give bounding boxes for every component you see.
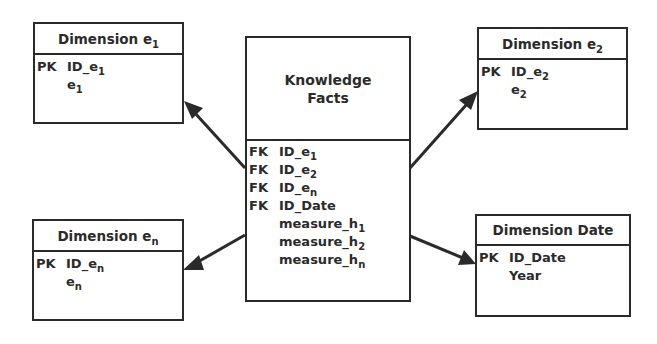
field-row: PK ID_Date — [479, 249, 629, 267]
knowledge-facts-title-line2: Facts — [307, 89, 349, 107]
primary-key-label: PK — [479, 249, 509, 267]
dimension-en-title: Dimension en — [57, 228, 158, 244]
field-row: Year — [479, 267, 629, 285]
primary-key-label: PK — [37, 58, 67, 76]
field-name: ID_e1 — [279, 143, 317, 161]
knowledge-facts-fields: FK ID_e1 FK ID_e2 FK ID_en FK ID_Date me… — [247, 141, 409, 269]
dimension-e1-fields: PK ID_e1 e1 — [35, 55, 182, 94]
field-row: FK ID_Date — [249, 197, 409, 215]
dimension-date-table: Dimension Date PK ID_Date Year — [475, 214, 631, 317]
field-row: FK ID_e1 — [249, 143, 409, 161]
field-row: PK ID_e1 — [37, 58, 182, 76]
measure-name: measure_h1 — [279, 215, 365, 233]
dimension-date-title: Dimension Date — [493, 222, 614, 238]
field-row: en — [36, 273, 182, 291]
knowledge-facts-header: Knowledge Facts — [247, 38, 409, 141]
foreign-key-label: FK — [249, 179, 279, 197]
field-name: ID_e2 — [511, 63, 549, 81]
foreign-key-label: FK — [249, 197, 279, 215]
dimension-en-fields: PK ID_en en — [34, 252, 182, 291]
dimension-e2-table: Dimension e2 PK ID_e2 e2 — [477, 27, 628, 130]
field-name: ID_Date — [509, 249, 566, 267]
arrow-to-dimension-date — [410, 236, 476, 265]
field-row: measure_h2 — [249, 233, 409, 251]
dimension-e2-header: Dimension e2 — [479, 29, 626, 60]
dimension-date-fields: PK ID_Date Year — [477, 246, 629, 285]
dimension-e1-title: Dimension e1 — [58, 31, 159, 47]
dimension-en-table: Dimension en PK ID_en en — [32, 219, 184, 321]
field-row: e2 — [481, 81, 626, 99]
knowledge-facts-title-line1: Knowledge — [284, 71, 371, 89]
field-name: ID_e2 — [279, 161, 317, 179]
field-row: PK ID_e2 — [481, 63, 626, 81]
field-name: ID_en — [66, 255, 104, 273]
field-row: FK ID_en — [249, 179, 409, 197]
field-name: ID_en — [279, 179, 317, 197]
primary-key-label: PK — [36, 255, 66, 273]
field-row: FK ID_e2 — [249, 161, 409, 179]
dimension-e2-title: Dimension e2 — [502, 36, 603, 52]
foreign-key-label: FK — [249, 143, 279, 161]
field-row: e1 — [37, 76, 182, 94]
field-row: measure_h1 — [249, 215, 409, 233]
dimension-e1-header: Dimension e1 — [35, 24, 182, 55]
dimension-e1-table: Dimension e1 PK ID_e1 e1 — [33, 22, 184, 124]
field-name: en — [66, 273, 82, 291]
field-row: PK ID_en — [36, 255, 182, 273]
knowledge-facts-table: Knowledge Facts FK ID_e1 FK ID_e2 FK ID_… — [245, 36, 411, 302]
measure-name: measure_h2 — [279, 233, 365, 251]
dimension-date-header: Dimension Date — [477, 216, 629, 246]
dimension-en-header: Dimension en — [34, 221, 182, 252]
measure-name: measure_hn — [279, 251, 365, 269]
arrow-to-dimension-e1 — [184, 101, 245, 168]
foreign-key-label: FK — [249, 161, 279, 179]
field-name: e2 — [511, 81, 527, 99]
field-name: ID_Date — [279, 197, 336, 215]
arrow-to-dimension-e2 — [410, 91, 478, 168]
primary-key-label: PK — [481, 63, 511, 81]
field-name: e1 — [67, 76, 83, 94]
dimension-e2-fields: PK ID_e2 e2 — [479, 60, 626, 99]
field-name: ID_e1 — [67, 58, 105, 76]
arrow-to-dimension-en — [183, 235, 245, 270]
field-name: Year — [509, 267, 541, 285]
field-row: measure_hn — [249, 251, 409, 269]
